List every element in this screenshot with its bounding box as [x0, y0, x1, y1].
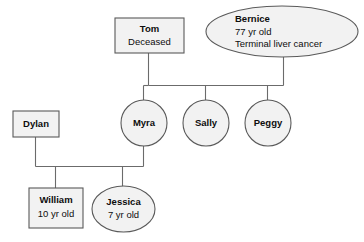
jessica-name: Jessica [106, 196, 141, 207]
myra-name: Myra [133, 117, 156, 128]
bernice-condition: Terminal liver cancer [235, 38, 322, 49]
connector-group-generation-2 [36, 137, 144, 189]
tom-name: Tom [140, 23, 159, 34]
bernice-ellipse[interactable] [206, 6, 358, 57]
node-dylan[interactable]: Dylan [13, 111, 59, 137]
node-william[interactable]: William 10 yr old [29, 188, 83, 228]
connector-group-generation-1 [144, 53, 284, 101]
node-sally[interactable]: Sally [183, 100, 229, 146]
william-name: William [39, 194, 72, 205]
bernice-name: Bernice [235, 13, 270, 24]
node-jessica[interactable]: Jessica 7 yr old [92, 186, 155, 232]
genogram-diagram: Tom Deceased Bernice 77 yr old Terminal … [0, 0, 364, 242]
tom-detail: Deceased [128, 36, 171, 47]
jessica-detail: 7 yr old [108, 209, 139, 220]
node-tom[interactable]: Tom Deceased [115, 18, 184, 53]
william-detail: 10 yr old [38, 208, 74, 219]
node-myra[interactable]: Myra [121, 100, 167, 146]
peggy-name: Peggy [254, 117, 283, 128]
bernice-age: 77 yr old [235, 26, 271, 37]
node-bernice[interactable]: Bernice 77 yr old Terminal liver cancer [206, 6, 358, 57]
sally-name: Sally [195, 117, 218, 128]
dylan-name: Dylan [23, 118, 49, 129]
node-peggy[interactable]: Peggy [245, 100, 291, 146]
